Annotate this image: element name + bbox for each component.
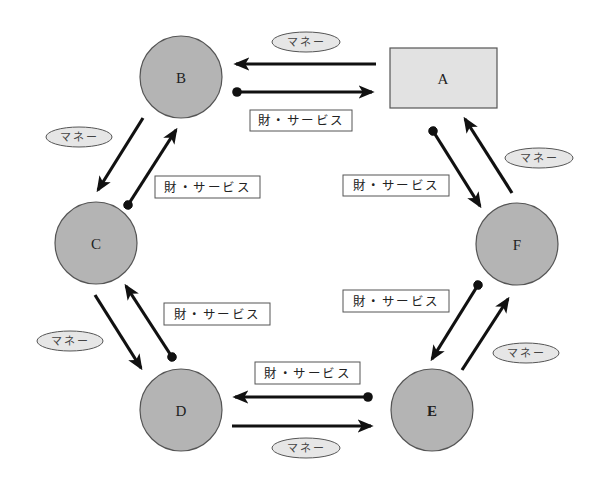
money-arrow-f-to-a [465,119,512,193]
money-text-b-c: マネー [60,131,99,144]
money-text-c-d: マネー [51,335,90,348]
node-e-label: E [427,403,437,419]
flow-f-a: マネー 財・サービス [343,119,573,206]
node-c: C [55,202,137,284]
money-text-a-b: マネー [287,36,326,49]
goods-text-c-d: 財・サービス [174,307,261,322]
node-d-label: D [176,403,187,419]
goods-text-a-b: 財・サービス [258,113,345,128]
node-c-label: C [91,236,101,252]
money-text-f-a: マネー [520,152,559,165]
money-text-d-e: マネー [287,442,326,455]
node-e: E [391,369,473,451]
flow-d-e: マネー 財・サービス [232,362,371,458]
circular-flow-diagram: A B C D E F マネー 財・サービス マネー 財・サービス [0,0,606,489]
goods-text-f-a: 財・サービス [353,178,440,193]
money-arrow-c-to-d [95,295,141,368]
goods-text-e-f: 財・サービス [353,294,440,309]
node-a: A [390,48,497,108]
flow-c-d: マネー 財・サービス [37,286,270,368]
node-d: D [140,369,222,451]
goods-text-d-e: 財・サービス [264,366,351,381]
flow-a-b: マネー 財・サービス [236,32,376,131]
flow-e-f: マネー 財・サービス [343,285,559,370]
node-b: B [140,36,222,118]
node-b-label: B [176,70,186,86]
flow-b-c: マネー 財・サービス [46,118,260,205]
node-f-label: F [513,237,521,253]
node-f: F [476,203,558,285]
money-arrow-b-to-c [98,118,143,190]
node-a-label: A [438,71,449,87]
goods-text-b-c: 財・サービス [164,180,251,195]
money-text-e-f: マネー [507,347,546,360]
